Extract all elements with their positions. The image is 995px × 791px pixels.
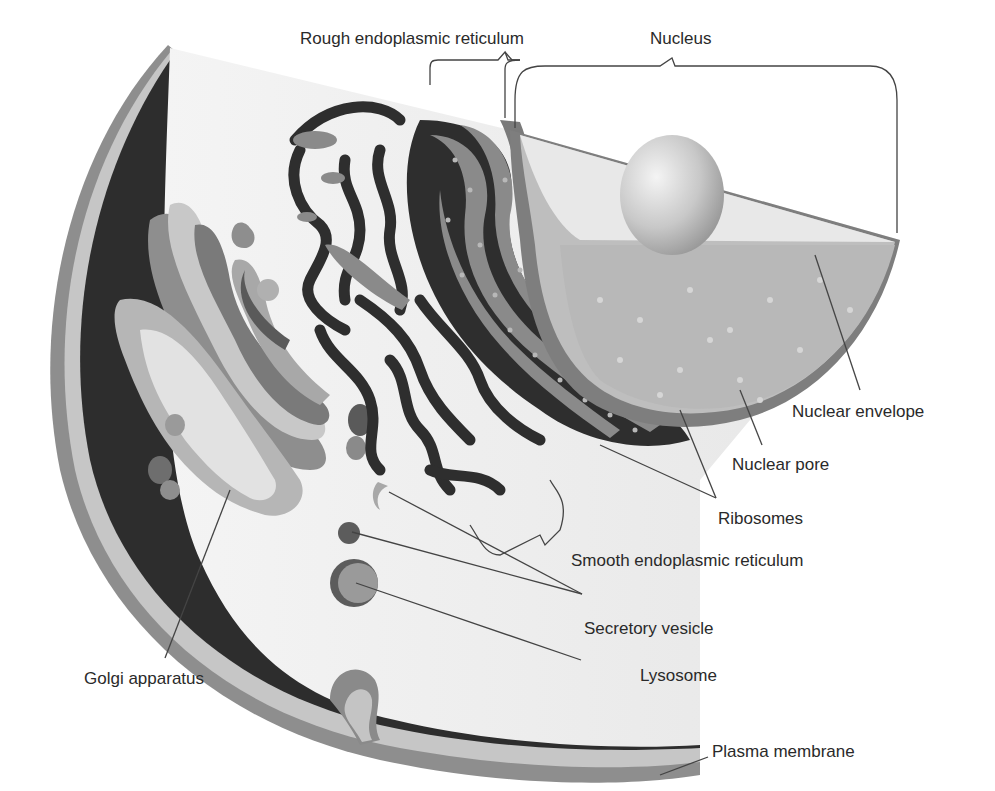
label-rough-er: Rough endoplasmic reticulum [300, 30, 524, 47]
cell-diagram: Rough endoplasmic reticulum Nucleus Nucl… [0, 0, 995, 791]
label-nuclear-pore: Nuclear pore [732, 456, 829, 473]
label-nucleus: Nucleus [650, 30, 711, 47]
label-smooth-er: Smooth endoplasmic reticulum [571, 552, 803, 569]
nucleolus [620, 135, 724, 255]
nucleus [510, 130, 900, 427]
label-golgi-apparatus: Golgi apparatus [84, 670, 204, 687]
label-secretory-vesicle: Secretory vesicle [584, 620, 713, 637]
label-lysosome: Lysosome [640, 667, 717, 684]
label-ribosomes: Ribosomes [718, 510, 803, 527]
label-nuclear-envelope: Nuclear envelope [792, 403, 924, 420]
label-plasma-membrane: Plasma membrane [712, 743, 855, 760]
